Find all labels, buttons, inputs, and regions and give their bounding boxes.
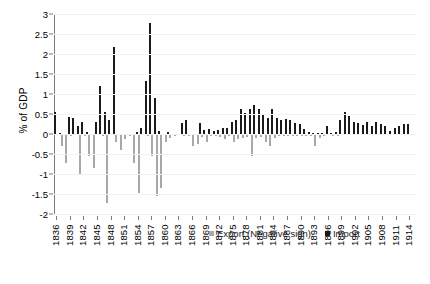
gridline bbox=[54, 34, 416, 35]
bar-import-1845 bbox=[95, 122, 97, 134]
bar-import-1847 bbox=[104, 112, 106, 134]
bar-import-1877 bbox=[240, 109, 242, 134]
bar-import-1865 bbox=[185, 120, 187, 134]
bar-export-1847 bbox=[106, 134, 108, 203]
x-tick-label: 1848 bbox=[105, 224, 116, 246]
x-tick-mark bbox=[56, 216, 57, 220]
bar-import-1913 bbox=[403, 124, 405, 134]
bar-import-1914 bbox=[407, 124, 409, 134]
y-tick-mark bbox=[49, 114, 53, 115]
x-tick-mark bbox=[178, 216, 179, 220]
bar-import-1884 bbox=[271, 109, 273, 134]
y-tick-label: 0.5 bbox=[16, 109, 48, 120]
legend-label: Export (Negative sign) bbox=[217, 228, 311, 239]
x-tick-mark bbox=[124, 216, 125, 220]
y-axis-tick-labels: 32.521.510.50-0.5-1-1.5-2 bbox=[16, 14, 48, 214]
gridline bbox=[54, 174, 416, 175]
bar-import-1881 bbox=[258, 109, 260, 134]
bar-import-1882 bbox=[262, 114, 264, 134]
y-tick-mark bbox=[49, 54, 53, 55]
bar-export-1869 bbox=[206, 134, 208, 142]
bar-import-1864 bbox=[181, 123, 183, 134]
x-tick-label: 1857 bbox=[145, 224, 156, 246]
bar-import-1879 bbox=[249, 109, 251, 134]
y-tick-mark bbox=[49, 94, 53, 95]
legend-item: Import bbox=[325, 228, 360, 239]
bar-import-1842 bbox=[81, 122, 83, 134]
bar-export-1849 bbox=[115, 134, 117, 142]
x-tick-mark bbox=[355, 216, 356, 220]
bar-import-1886 bbox=[280, 120, 282, 134]
x-axis-tick-labels: 1836183918421845184818511854185718601863… bbox=[54, 216, 416, 278]
bar-export-1838 bbox=[65, 134, 67, 163]
bar-import-1875 bbox=[231, 122, 233, 134]
bar-export-1867 bbox=[197, 134, 199, 144]
x-tick-mark bbox=[192, 216, 193, 220]
y-tick-label: 2 bbox=[16, 49, 48, 60]
x-tick-mark bbox=[233, 216, 234, 220]
gridline bbox=[54, 194, 416, 195]
y-tick-mark bbox=[49, 214, 53, 215]
bar-import-1858 bbox=[154, 98, 156, 134]
chart-figure: % of GDP 32.521.510.50-0.5-1-1.5-2 18361… bbox=[0, 0, 430, 284]
gridline bbox=[54, 74, 416, 75]
x-tick-mark bbox=[382, 216, 383, 220]
bar-import-1876 bbox=[235, 120, 237, 134]
bar-import-1903 bbox=[357, 123, 359, 134]
x-tick-mark bbox=[396, 216, 397, 220]
x-tick-mark bbox=[97, 216, 98, 220]
gridline bbox=[54, 214, 416, 215]
y-tick-label: 3 bbox=[16, 9, 48, 20]
x-tick-label: 1866 bbox=[186, 224, 197, 246]
x-tick-label: 1836 bbox=[50, 224, 61, 246]
bar-import-1904 bbox=[362, 125, 364, 134]
bar-import-1856 bbox=[145, 81, 147, 134]
x-tick-mark bbox=[151, 216, 152, 220]
x-tick-mark bbox=[273, 216, 274, 220]
legend-swatch-icon bbox=[209, 231, 214, 236]
y-tick-label: -2 bbox=[16, 209, 48, 220]
bar-export-1859 bbox=[160, 134, 162, 188]
x-tick-label: 1863 bbox=[172, 224, 183, 246]
x-tick-mark bbox=[165, 216, 166, 220]
legend-swatch-icon bbox=[325, 231, 330, 236]
plot-area bbox=[54, 14, 416, 214]
gridline bbox=[54, 54, 416, 55]
x-tick-mark bbox=[301, 216, 302, 220]
bar-export-1883 bbox=[269, 134, 271, 146]
x-tick-mark bbox=[314, 216, 315, 220]
y-tick-label: 0 bbox=[16, 129, 48, 140]
x-tick-mark bbox=[219, 216, 220, 220]
bar-export-1858 bbox=[156, 134, 158, 196]
x-tick-mark bbox=[341, 216, 342, 220]
legend-item: Export (Negative sign) bbox=[209, 228, 311, 239]
gridline bbox=[54, 114, 416, 115]
y-tick-mark bbox=[49, 14, 53, 15]
bar-import-1896 bbox=[326, 126, 328, 134]
x-tick-label: 1908 bbox=[376, 224, 387, 246]
bar-import-1868 bbox=[199, 123, 201, 134]
gridline bbox=[54, 154, 416, 155]
x-tick-label: 1839 bbox=[64, 224, 75, 246]
y-tick-label: -1.5 bbox=[16, 189, 48, 200]
y-tick-label: -1 bbox=[16, 169, 48, 180]
y-tick-mark bbox=[49, 154, 53, 155]
bar-import-1840 bbox=[72, 118, 74, 134]
x-tick-mark bbox=[328, 216, 329, 220]
x-tick-label: 1914 bbox=[403, 224, 414, 246]
y-tick-mark bbox=[49, 134, 53, 135]
bar-import-1907 bbox=[375, 122, 377, 134]
bar-import-1839 bbox=[68, 117, 70, 134]
x-tick-mark bbox=[83, 216, 84, 220]
gridline bbox=[54, 14, 416, 15]
x-tick-label: 1860 bbox=[159, 224, 170, 246]
bar-import-1912 bbox=[398, 126, 400, 134]
x-tick-mark bbox=[246, 216, 247, 220]
y-tick-label: 2.5 bbox=[16, 29, 48, 40]
x-tick-label: 1905 bbox=[362, 224, 373, 246]
bar-export-1844 bbox=[93, 134, 95, 168]
bar-import-1909 bbox=[384, 126, 386, 134]
x-tick-label: 1845 bbox=[91, 224, 102, 246]
legend-label: Import bbox=[333, 228, 360, 239]
bar-export-1854 bbox=[138, 134, 140, 193]
